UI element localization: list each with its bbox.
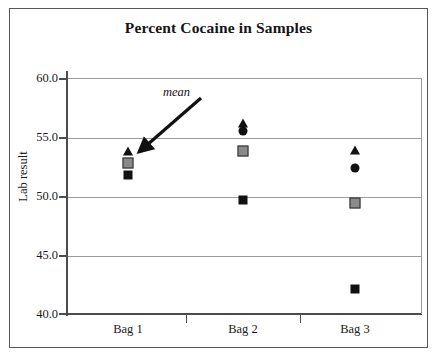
data-point-triangle-bag1 xyxy=(123,147,133,156)
mean-annotation-label: mean xyxy=(163,85,190,100)
gridline-55 xyxy=(68,138,421,139)
x-tick-mark-2 xyxy=(300,315,301,323)
data-point-mean-bag2 xyxy=(238,146,249,157)
x-tick-label-bag2: Bag 2 xyxy=(198,322,288,337)
data-point-circle-bag3 xyxy=(351,164,360,173)
x-tick-mark-1 xyxy=(186,315,187,323)
chart-figure: Percent Cocaine in Samples 60.0 55.0 50.… xyxy=(0,0,437,357)
y-tick-label-50: 50.0 xyxy=(6,189,58,204)
data-point-square-bag2 xyxy=(239,196,248,205)
y-tick-label-60: 60.0 xyxy=(6,71,58,86)
chart-title: Percent Cocaine in Samples xyxy=(0,19,437,37)
y-tick-label-45: 45.0 xyxy=(6,248,58,263)
data-point-square-bag3 xyxy=(351,285,360,294)
data-point-mean-bag3 xyxy=(350,198,361,209)
y-axis-title: Lab result xyxy=(16,127,31,227)
x-tick-label-bag1: Bag 1 xyxy=(83,322,173,337)
data-point-triangle-bag3 xyxy=(350,146,360,155)
data-point-circle-bag2 xyxy=(239,127,248,136)
gridline-45 xyxy=(68,256,421,257)
plot-area xyxy=(68,78,422,314)
x-tick-label-bag3: Bag 3 xyxy=(310,322,400,337)
y-tick-label-55: 55.0 xyxy=(6,130,58,145)
y-tick-label-40: 40.0 xyxy=(6,307,58,322)
data-point-square-bag1 xyxy=(124,171,133,180)
data-point-mean-bag1 xyxy=(123,158,134,169)
